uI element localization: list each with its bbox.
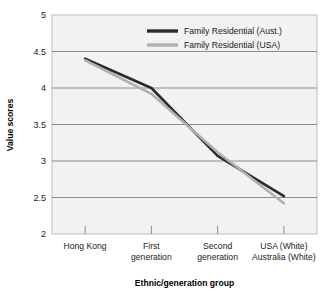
x-tick-label: generation xyxy=(197,252,238,262)
y-tick-label: 3 xyxy=(41,156,46,166)
y-tick-label: 2.5 xyxy=(33,193,46,203)
x-tick-label: Hong Kong xyxy=(64,241,107,251)
y-tick-label: 3.5 xyxy=(33,120,46,130)
y-tick-label: 5 xyxy=(41,10,46,20)
y-tick-label: 4 xyxy=(41,83,46,93)
x-tick-label: Second xyxy=(203,241,232,251)
legend-label-0: Family Residential (Aust.) xyxy=(184,26,282,36)
x-tick-label: First xyxy=(143,241,160,251)
x-tick-label: generation xyxy=(131,252,172,262)
chart-canvas: 22.533.544.55Hong KongFirstgenerationSec… xyxy=(0,0,331,293)
value-scores-line-chart: 22.533.544.55Hong KongFirstgenerationSec… xyxy=(0,0,331,293)
x-tick-label: USA (White) xyxy=(260,241,307,251)
legend-label-1: Family Residential (USA) xyxy=(184,40,280,50)
y-tick-label: 2 xyxy=(41,229,46,239)
y-axis-tick-labels: 22.533.544.55 xyxy=(33,10,46,239)
x-tick-label: Australia (White) xyxy=(252,252,316,262)
x-axis-title: Ethnic/generation group xyxy=(135,278,234,288)
y-axis-title: Value scores xyxy=(5,99,15,152)
x-axis-tick-labels: Hong KongFirstgenerationSecondgeneration… xyxy=(64,241,316,262)
y-tick-label: 4.5 xyxy=(33,47,46,57)
